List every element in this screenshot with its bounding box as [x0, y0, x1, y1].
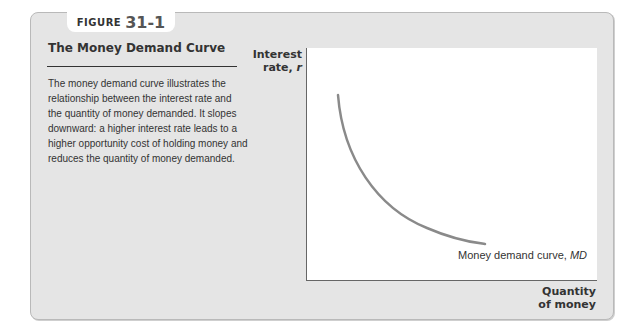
curve-label-variable: MD	[570, 249, 587, 261]
figure-tab: FIGURE 31-1	[67, 12, 175, 32]
curve-label: Money demand curve, MD	[458, 249, 587, 261]
y-axis-variable: r	[297, 61, 302, 74]
x-axis-label-line1: Quantity	[542, 285, 596, 298]
x-axis-label-line2: of money	[538, 298, 596, 311]
figure-tab-label: FIGURE	[77, 17, 121, 28]
y-axis-label: Interest rate, r	[240, 48, 302, 74]
figure-description: The money demand curve illustrates the r…	[48, 76, 248, 166]
money-demand-curve	[307, 48, 597, 280]
curve-label-text: Money demand curve,	[458, 249, 570, 261]
title-divider	[47, 66, 237, 67]
figure-title: The Money Demand Curve	[48, 41, 225, 55]
y-axis-label-line2: rate,	[263, 61, 297, 74]
figure-number: 31-1	[125, 13, 165, 32]
y-axis-label-line1: Interest	[253, 48, 302, 61]
x-axis-label: Quantity of money	[520, 285, 596, 311]
plot-area: Money demand curve, MD	[306, 48, 597, 281]
